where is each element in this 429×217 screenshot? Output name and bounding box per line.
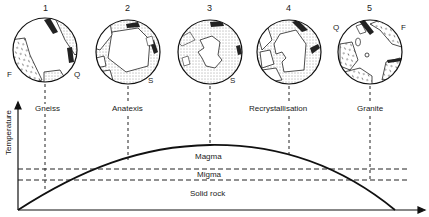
thin-section-2 [90, 15, 170, 90]
mineral-label-F-1: F [7, 71, 12, 79]
zone-label-solid-rock: Solid rock [190, 189, 225, 198]
stage-number-2: 2 [125, 4, 130, 13]
mineral-label-S-3: S [230, 77, 235, 85]
stage-label-gneiss: Gneiss [33, 104, 62, 113]
stage-label-anatexis: Anatexis [110, 104, 145, 113]
mineral-label-Q-1: Q [74, 71, 80, 79]
thin-section-5 [335, 15, 410, 90]
mineral-label-F-5: F [401, 24, 406, 32]
mineral-label-Q-5: Q [333, 24, 339, 32]
thin-section-3 [170, 15, 250, 90]
zone-label-magma: Magma [195, 152, 222, 161]
y-axis-label: Temperature [4, 110, 13, 155]
thin-section-4 [250, 15, 330, 90]
stage-number-1: 1 [43, 4, 48, 13]
mineral-label-S-2: S [148, 77, 153, 85]
stage-number-4: 4 [286, 4, 291, 13]
stage-label-granite: Granite [355, 104, 385, 113]
stage-number-5: 5 [367, 4, 372, 13]
zone-label-migma: Migma [196, 170, 222, 179]
stage-number-3: 3 [207, 4, 212, 13]
stage-label-recrystallisation: Recrystallisation [247, 104, 309, 113]
